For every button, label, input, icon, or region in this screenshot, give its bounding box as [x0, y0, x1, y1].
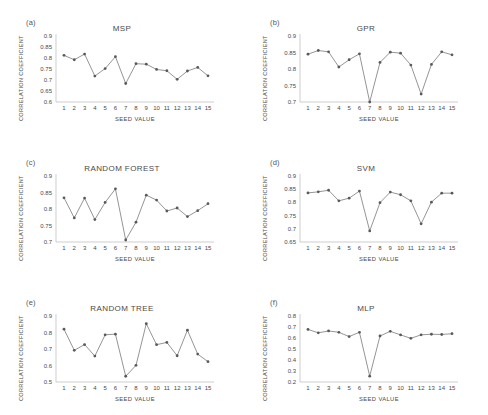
y-tick-label: 0.8 [288, 199, 296, 205]
data-point-marker [83, 197, 86, 200]
data-series-line [308, 190, 452, 231]
data-point-marker [440, 50, 443, 53]
data-point-marker [124, 375, 127, 378]
y-tick-label: 0.9 [44, 313, 52, 319]
x-tick-label: 10 [397, 245, 404, 251]
y-axis-label: CORRELATION COEFFICIENT [18, 314, 24, 402]
x-tick-label: 14 [438, 105, 445, 111]
x-tick-label: 7 [368, 245, 371, 251]
x-tick-label: 9 [389, 245, 392, 251]
y-tick-label: 0.7 [44, 239, 52, 245]
x-tick-label: 6 [114, 385, 117, 391]
data-point-marker [165, 210, 168, 213]
data-point-marker [73, 217, 76, 220]
x-tick-label: 8 [134, 245, 137, 251]
data-point-marker [93, 218, 96, 221]
x-tick-label: 11 [408, 245, 414, 251]
y-tick-label: 0.7 [288, 226, 296, 232]
data-point-marker [114, 55, 117, 58]
line-chart-svg [300, 176, 458, 244]
x-tick-label: 13 [184, 385, 191, 391]
y-axis-ticks: 0.50.60.70.80.9 [26, 316, 52, 382]
y-tick-label: 0.7 [288, 99, 296, 105]
y-tick-label: 0.5 [44, 379, 52, 385]
y-tick-label: 0.9 [44, 33, 52, 39]
data-point-marker [176, 354, 179, 357]
x-tick-label: 11 [408, 105, 414, 111]
data-point-marker [430, 201, 433, 204]
x-tick-label: 3 [83, 105, 86, 111]
data-point-marker [358, 331, 361, 334]
data-point-marker [379, 201, 382, 204]
x-tick-label: 2 [317, 105, 320, 111]
data-point-marker [186, 70, 189, 73]
x-tick-label: 3 [327, 245, 330, 251]
y-tick-label: 0.3 [288, 368, 296, 374]
data-point-marker [420, 93, 423, 96]
data-point-marker [327, 50, 330, 53]
data-point-marker [207, 360, 210, 363]
data-point-marker [337, 331, 340, 334]
data-point-marker [93, 355, 96, 358]
x-tick-label: 4 [93, 385, 96, 391]
chart-panel-1: (a)MSPCORRELATION COEFFICIENT0.60.650.70… [0, 0, 244, 140]
x-axis-ticks: 123456789101112131415 [300, 385, 458, 395]
data-point-marker [145, 194, 148, 197]
y-tick-label: 0.7 [44, 346, 52, 352]
data-point-marker [145, 322, 148, 325]
x-axis-ticks: 123456789101112131415 [56, 105, 214, 115]
data-point-marker [409, 64, 412, 67]
y-tick-label: 0.75 [40, 66, 52, 72]
data-point-marker [399, 52, 402, 55]
x-axis-ticks: 123456789101112131415 [300, 105, 458, 115]
y-axis-label: CORRELATION COEFFICIENT [18, 174, 24, 262]
x-tick-label: 11 [408, 385, 414, 391]
x-tick-label: 10 [397, 385, 404, 391]
data-point-marker [368, 375, 371, 378]
x-axis-ticks: 123456789101112131415 [56, 385, 214, 395]
figure-grid: (a)MSPCORRELATION COEFFICIENT0.60.650.70… [0, 0, 488, 415]
x-tick-label: 6 [114, 105, 117, 111]
data-point-marker [186, 215, 189, 218]
x-tick-label: 3 [327, 385, 330, 391]
chart-panel-3: (c)RANDOM FORESTCORRELATION COEFFICIENT0… [0, 140, 244, 280]
data-point-marker [440, 192, 443, 195]
x-tick-label: 11 [164, 105, 170, 111]
data-point-marker [348, 58, 351, 61]
data-point-marker [307, 191, 310, 194]
x-tick-label: 9 [145, 105, 148, 111]
x-tick-label: 12 [174, 245, 181, 251]
data-point-marker [337, 66, 340, 69]
x-tick-label: 3 [327, 105, 330, 111]
data-point-marker [155, 68, 158, 71]
data-point-marker [186, 329, 189, 332]
data-point-marker [135, 364, 138, 367]
data-point-marker [207, 202, 210, 205]
x-axis-label: SEED VALUE [56, 396, 214, 402]
x-tick-label: 14 [194, 245, 201, 251]
chart-panel-5: (e)RANDOM TREECORRELATION COEFFICIENT0.5… [0, 280, 244, 415]
x-tick-label: 5 [347, 105, 350, 111]
chart-canvas [56, 36, 214, 104]
x-tick-label: 9 [145, 385, 148, 391]
data-point-marker [420, 333, 423, 336]
data-point-marker [114, 187, 117, 190]
line-chart-svg [56, 36, 214, 104]
y-axis-label: CORRELATION COEFFICIENT [262, 174, 268, 262]
x-tick-label: 7 [368, 385, 371, 391]
x-tick-label: 5 [347, 245, 350, 251]
data-point-marker [196, 209, 199, 212]
y-axis-label: CORRELATION COEFFICIENT [18, 34, 24, 122]
x-tick-label: 2 [73, 385, 76, 391]
x-tick-label: 8 [378, 385, 381, 391]
chart-title: MSP [0, 24, 244, 33]
x-tick-label: 1 [62, 105, 65, 111]
x-tick-label: 14 [438, 385, 445, 391]
x-tick-label: 1 [62, 245, 65, 251]
y-axis-ticks: 0.70.750.80.850.9 [26, 176, 52, 242]
y-tick-label: 0.8 [44, 55, 52, 61]
y-tick-label: 0.6 [288, 335, 296, 341]
data-point-marker [409, 337, 412, 340]
data-point-marker [389, 191, 392, 194]
x-tick-label: 13 [184, 245, 191, 251]
